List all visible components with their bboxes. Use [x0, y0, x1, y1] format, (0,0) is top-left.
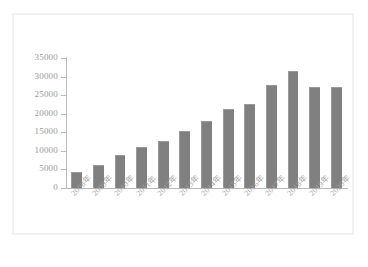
bar — [309, 87, 320, 188]
y-axis-tick-label: 10000 — [12, 146, 58, 155]
bar — [266, 85, 277, 188]
y-axis-tick-label: 0 — [12, 183, 58, 192]
y-axis-tick-label: 30000 — [12, 72, 58, 81]
bar — [331, 87, 342, 188]
y-axis-tick-label: 5000 — [12, 164, 58, 173]
y-axis-tick-label: 15000 — [12, 127, 58, 136]
y-axis-tick-label: 35000 — [12, 53, 58, 62]
y-axis-tick-label: 25000 — [12, 90, 58, 99]
bar — [244, 104, 255, 188]
y-axis-tick-label: 20000 — [12, 109, 58, 118]
bar — [201, 121, 212, 188]
bar — [223, 109, 234, 188]
plot-area — [66, 58, 347, 188]
chart-figure: 05000100001500020000250003000035000 2008… — [0, 0, 368, 267]
bar — [288, 71, 299, 188]
y-axis-tick — [61, 188, 66, 189]
